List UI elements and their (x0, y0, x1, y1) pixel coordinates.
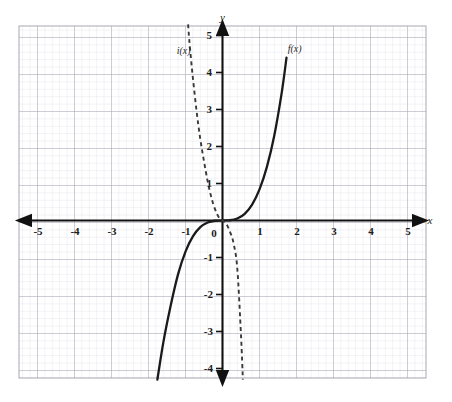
y-tick-1: 1 (207, 177, 213, 189)
y-tick--3: -3 (204, 325, 214, 337)
x-tick--4: -4 (70, 225, 80, 237)
curve-label-f-of-x: f(x) (288, 43, 303, 55)
cropped-text-remnant (60, 0, 420, 6)
coordinate-plane: x y -5 -4 -3 -2 -1 0 1 2 3 4 5 5 4 3 2 1… (0, 0, 452, 402)
x-tick--3: -3 (107, 225, 117, 237)
x-axis-label: x (427, 214, 433, 226)
y-tick-5: 5 (207, 29, 213, 41)
x-tick-3: 3 (331, 225, 337, 237)
y-tick--1: -1 (204, 251, 213, 263)
x-tick-0: 0 (211, 227, 217, 239)
y-tick--4: -4 (204, 362, 214, 374)
y-axis-label: y (219, 11, 225, 23)
curve-label-i-of-x: i(x) (177, 45, 192, 57)
x-tick-2: 2 (294, 225, 300, 237)
x-tick-4: 4 (368, 225, 374, 237)
y-tick-2: 2 (207, 140, 213, 152)
x-tick--1: -1 (181, 225, 190, 237)
x-tick--5: -5 (33, 225, 43, 237)
graph-figure: x y -5 -4 -3 -2 -1 0 1 2 3 4 5 5 4 3 2 1… (0, 0, 452, 402)
y-tick-3: 3 (207, 103, 213, 115)
x-tick-5: 5 (405, 225, 411, 237)
x-tick--2: -2 (144, 225, 154, 237)
y-tick--2: -2 (204, 288, 214, 300)
y-tick-4: 4 (207, 66, 213, 78)
x-tick-1: 1 (257, 225, 263, 237)
